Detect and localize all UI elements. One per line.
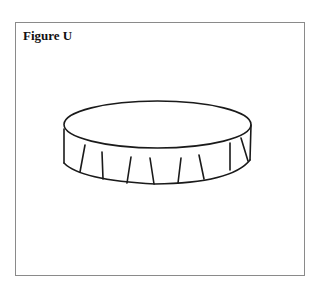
disc-drawing bbox=[0, 0, 322, 287]
disc-top-ellipse bbox=[64, 101, 251, 148]
disc-right-side bbox=[250, 125, 251, 160]
disc-ridges bbox=[80, 138, 248, 184]
disc-bottom-curve bbox=[64, 160, 250, 184]
